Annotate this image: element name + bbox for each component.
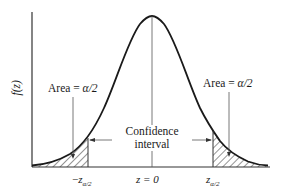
left-area-label: Area = α/2 bbox=[48, 83, 98, 95]
right-area-symbol: α/2 bbox=[238, 77, 253, 89]
left-area-prefix: Area = bbox=[48, 82, 83, 94]
diagram-canvas bbox=[0, 0, 281, 191]
y-axis-label-text: f(z) bbox=[10, 80, 22, 95]
ci-left-arrowhead bbox=[89, 138, 95, 142]
x-label-z-zero: z = 0 bbox=[136, 174, 159, 185]
neg-z-sub: α/2 bbox=[83, 180, 92, 188]
confidence-interval-label: Confidence interval bbox=[112, 125, 192, 151]
ci-right-arrowhead bbox=[206, 138, 212, 142]
y-axis-label: f(z) bbox=[11, 76, 23, 100]
right-area-label: Area = α/2 bbox=[203, 78, 253, 90]
x-label-z-alpha-2: zα/2 bbox=[206, 174, 219, 188]
pos-z-sub: α/2 bbox=[210, 180, 219, 188]
right-tail-hatch bbox=[212, 120, 272, 168]
ci-label-line2: interval bbox=[112, 138, 192, 151]
confidence-interval-diagram: f(z) Area = α/2 Area = α/2 Confidence in… bbox=[0, 0, 281, 191]
left-area-symbol: α/2 bbox=[83, 82, 98, 94]
right-area-prefix: Area = bbox=[203, 77, 238, 89]
ci-label-line1: Confidence bbox=[112, 125, 192, 138]
x-label-neg-z-alpha-2: −zα/2 bbox=[72, 174, 92, 188]
z-zero-text: z = 0 bbox=[136, 173, 159, 185]
